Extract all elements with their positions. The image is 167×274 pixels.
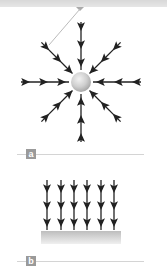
panel-b-uniform-field [43,180,118,230]
panel-b-label: b [26,256,36,266]
panel-b-rule [17,261,144,262]
surface-slab [41,231,121,244]
sphere [71,72,91,92]
panel-a-label: a [26,149,36,159]
figure-canvas [0,0,167,274]
panel-a-rule [17,154,144,155]
